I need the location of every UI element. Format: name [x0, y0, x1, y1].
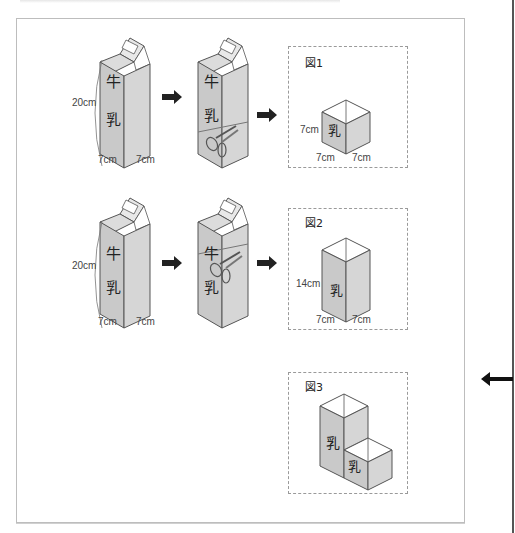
- height-bracket: [88, 58, 108, 168]
- cube-width-right-label: 7cm: [352, 152, 371, 163]
- width-left-label: 7cm: [98, 316, 117, 327]
- tall-box-text: 乳: [326, 432, 340, 452]
- figure-1-label: 図1: [305, 54, 323, 70]
- cube-width-left-label: 7cm: [316, 152, 335, 163]
- prism-width-right-label: 7cm: [352, 314, 371, 325]
- prism-width-left-label: 7cm: [316, 314, 335, 325]
- carton-text-milk-top: 牛: [106, 242, 121, 263]
- short-box-text: 乳: [348, 456, 361, 475]
- right-arrow-icon: [162, 256, 184, 272]
- prism-height-label: 14cm: [296, 278, 320, 289]
- carton-text-milk-bottom: 乳: [204, 104, 219, 125]
- prism-text: 乳: [330, 280, 343, 299]
- page-edge-line: [512, 0, 514, 533]
- left-arrow-icon: [481, 372, 513, 386]
- carton-text-milk-top: 牛: [204, 242, 219, 263]
- width-right-label: 7cm: [136, 154, 155, 165]
- scissors-icon: [210, 262, 246, 292]
- right-arrow-icon: [257, 108, 279, 124]
- height-bracket: [88, 220, 108, 330]
- carton-text-milk-bottom: 乳: [106, 276, 121, 297]
- right-arrow-icon: [162, 90, 184, 106]
- figure-2-label: 図2: [305, 214, 323, 230]
- width-left-label: 7cm: [98, 154, 117, 165]
- carton-text-milk-top: 牛: [106, 70, 121, 91]
- cut-off-header-text: [20, 0, 340, 3]
- height-label: 20cm: [72, 260, 96, 271]
- carton-text-milk-top: 牛: [204, 70, 219, 91]
- height-label: 20cm: [72, 97, 96, 108]
- figure-3-label: 図3: [305, 378, 323, 394]
- cube-height-label: 7cm: [300, 124, 319, 135]
- width-right-label: 7cm: [136, 316, 155, 327]
- scissors-icon: [206, 136, 242, 166]
- right-arrow-icon: [257, 256, 279, 272]
- carton-text-milk-bottom: 乳: [106, 108, 121, 129]
- milk-carton-row2-original: [100, 196, 160, 336]
- cube-text: 乳: [328, 120, 341, 139]
